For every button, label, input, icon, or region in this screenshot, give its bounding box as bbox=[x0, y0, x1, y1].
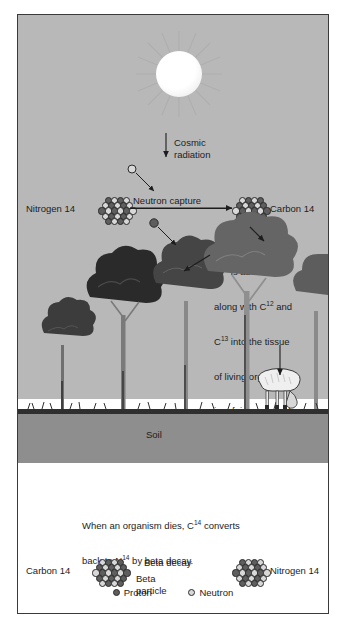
grass-tufts bbox=[28, 402, 318, 409]
carbon-14-nucleus-bottom bbox=[96, 557, 126, 587]
proton-swatch-icon bbox=[113, 589, 120, 596]
carbon-14-label-bottom: Carbon 14 bbox=[26, 565, 70, 577]
legend-neutron: Neutron bbox=[188, 587, 233, 598]
nitrogen-14-label-bottom: Nitrogen 14 bbox=[270, 565, 319, 577]
incoming-neutron-arrow bbox=[136, 173, 154, 191]
ejected-proton-arrow bbox=[158, 227, 176, 245]
neutron-label: Neutron bbox=[199, 587, 233, 598]
tree-small bbox=[42, 297, 96, 409]
sheep-figure bbox=[258, 369, 300, 410]
incoming-neutron-dot bbox=[128, 165, 136, 173]
legend-proton: Proton bbox=[113, 587, 155, 598]
ejected-proton-dot bbox=[150, 219, 158, 227]
figure-panel: Cosmic radiation Nitrogen 14 Neutron cap… bbox=[17, 14, 329, 614]
soil-label: Soil bbox=[146, 429, 162, 441]
proton-label: Proton bbox=[124, 587, 152, 598]
legend: Proton Neutron bbox=[18, 587, 328, 598]
ground-surface-line bbox=[18, 409, 328, 414]
dec-l1a: When an organism dies, C bbox=[82, 520, 194, 531]
soil-layer bbox=[18, 413, 328, 463]
beta-decay-label: Beta decay bbox=[144, 557, 192, 569]
neutron-swatch-icon bbox=[188, 589, 195, 596]
nitrogen-14-nucleus-bottom bbox=[236, 557, 266, 587]
dec-l1b: converts bbox=[201, 520, 240, 531]
carbon-14-cycle-figure: Cosmic radiation Nitrogen 14 Neutron cap… bbox=[0, 0, 347, 630]
